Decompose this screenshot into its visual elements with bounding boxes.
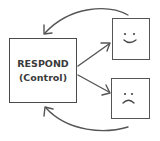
arrow-to-positive bbox=[78, 43, 110, 66]
arrow-to-negative bbox=[78, 75, 110, 95]
control-node-box: RESPOND (Control) bbox=[9, 38, 77, 103]
feedback-diagram: RESPOND (Control) bbox=[0, 0, 160, 141]
control-node-title: RESPOND bbox=[17, 57, 69, 71]
positive-outcome-box bbox=[112, 18, 150, 60]
smiling-face-icon bbox=[111, 17, 149, 59]
frowning-face-icon bbox=[110, 77, 149, 118]
negative-outcome-box bbox=[111, 78, 150, 119]
control-node-subtitle: (Control) bbox=[19, 71, 67, 85]
